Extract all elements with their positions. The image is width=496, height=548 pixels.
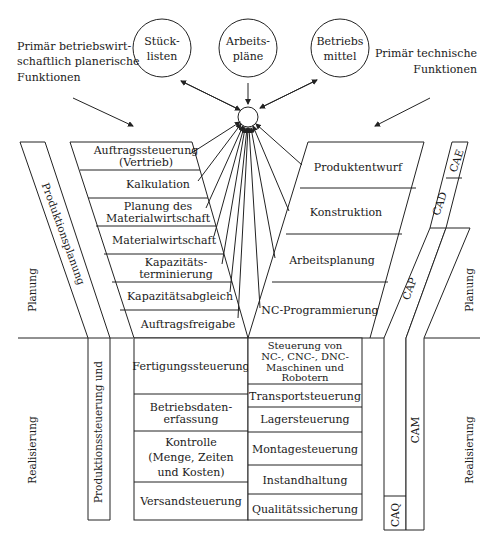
circle-stuecklisten: Stück- listen — [133, 19, 191, 77]
svg-text:Funktionen: Funktionen — [413, 63, 477, 76]
right-heading: Primär technische Funktionen — [375, 47, 477, 76]
svg-text:Arbeitsplanung: Arbeitsplanung — [288, 254, 375, 267]
svg-text:Materialwirtschaft: Materialwirtschaft — [106, 212, 211, 225]
svg-text:Kontrolle: Kontrolle — [165, 436, 216, 449]
label-planung-left: Planung — [26, 268, 38, 312]
left-heading: Primär betriebswirt- schaftlich planeris… — [17, 40, 140, 84]
svg-text:Lagersteuerung: Lagersteuerung — [260, 413, 349, 426]
svg-text:Materialwirtschaft: Materialwirtschaft — [112, 234, 217, 247]
svg-text:schaftlich planerische: schaftlich planerische — [17, 55, 140, 68]
label-realisierung-right: Realisierung — [463, 416, 475, 484]
svg-text:Primär betriebswirt-: Primär betriebswirt- — [17, 40, 131, 53]
svg-text:Montagesteuerung: Montagesteuerung — [252, 443, 358, 456]
svg-text:NC-, CNC-, DNC-: NC-, CNC-, DNC- — [261, 351, 349, 362]
svg-text:Auftragsfreigabe: Auftragsfreigabe — [140, 318, 236, 331]
svg-text:Versandsteuerung: Versandsteuerung — [139, 495, 242, 508]
svg-text:Kapazitätsabgleich: Kapazitätsabgleich — [127, 290, 233, 303]
label-planung-right: Planung — [463, 268, 475, 312]
svg-text:Stück-: Stück- — [144, 35, 180, 48]
y-cim-diagram: Stück- listen Arbeits- pläne Betriebs mi… — [0, 0, 496, 548]
svg-text:Betriebs: Betriebs — [317, 35, 364, 48]
circle-betriebsmittel: Betriebs mittel — [311, 19, 369, 77]
svg-text:Instandhaltung: Instandhaltung — [263, 474, 348, 487]
svg-text:Produktionssteuerung und: Produktionssteuerung und — [92, 361, 104, 503]
svg-text:Produktentwurf: Produktentwurf — [314, 161, 403, 174]
svg-text:Kalkulation: Kalkulation — [126, 178, 190, 191]
svg-text:Robotern: Robotern — [281, 372, 329, 383]
svg-text:CAQ: CAQ — [389, 503, 401, 528]
diagram-canvas: Stück- listen Arbeits- pläne Betriebs mi… — [0, 0, 496, 548]
svg-text:mittel: mittel — [324, 50, 357, 63]
svg-text:Transportsteuerung: Transportsteuerung — [249, 390, 361, 403]
svg-text:pläne: pläne — [233, 50, 264, 63]
svg-text:Produktionsplanung: Produktionsplanung — [40, 181, 88, 287]
svg-text:Qualitätssicherung: Qualitätssicherung — [252, 503, 358, 516]
svg-text:(Menge, Zeiten: (Menge, Zeiten — [148, 451, 233, 464]
left-realization-column: Fertigungssteuerung Betriebsdaten- erfas… — [132, 338, 249, 520]
svg-text:Konstruktion: Konstruktion — [310, 206, 382, 219]
svg-text:terminierung: terminierung — [139, 268, 213, 281]
svg-text:erfassung: erfassung — [164, 413, 219, 426]
svg-text:Primär technische: Primär technische — [375, 47, 477, 60]
svg-text:listen: listen — [147, 50, 178, 63]
svg-text:Funktionen: Funktionen — [17, 71, 81, 84]
svg-text:Fertigungssteuerung: Fertigungssteuerung — [132, 360, 249, 373]
label-realisierung-left: Realisierung — [26, 416, 38, 484]
circle-arbeitsplaene: Arbeits- pläne — [219, 19, 277, 77]
svg-text:und Kosten): und Kosten) — [157, 466, 224, 479]
svg-text:CAM: CAM — [409, 417, 421, 444]
svg-text:(Vertrieb): (Vertrieb) — [119, 156, 173, 169]
svg-text:Arbeits-: Arbeits- — [225, 35, 270, 48]
svg-text:NC-Programmierung: NC-Programmierung — [261, 304, 378, 317]
right-realization-column: Steuerung von NC-, CNC-, DNC- Maschinen … — [248, 338, 362, 520]
svg-text:Steuerung von: Steuerung von — [268, 340, 343, 351]
